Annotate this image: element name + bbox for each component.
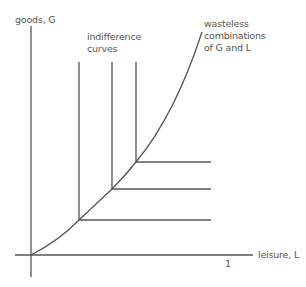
x-tick-label: 1 [225,258,231,270]
indifference-label-line2: curves [87,43,117,55]
diagram-canvas [0,0,306,287]
x-axis-label: leisure, L [258,249,299,261]
frontier-label-line1: wasteless [204,18,249,30]
indifference-curve-1 [79,62,211,220]
frontier-label-line2: combinations [204,30,266,42]
indifference-label-line1: indifference [87,31,141,43]
wasteless-frontier-curve [31,32,202,255]
frontier-label-line3: of G and L [204,42,251,54]
y-axis-label: goods, G [15,14,55,26]
